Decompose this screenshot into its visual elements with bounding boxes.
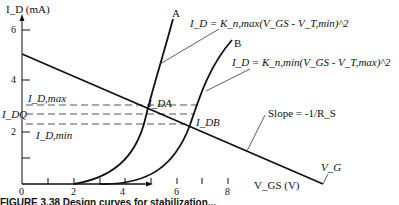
x-axis-arrow-icon <box>146 182 153 187</box>
y-tick-6: 6 <box>11 25 16 35</box>
x-axis-label: V_GS (V) <box>254 180 300 191</box>
y-tick-4: 4 <box>11 75 16 85</box>
curve-a-equation: I_D = K_n,max(V_GS - V_T,min)^2 <box>190 18 349 29</box>
y-axis-arrow-icon <box>20 14 25 21</box>
idb-label: I_DB <box>196 117 220 128</box>
x-tick-2: 2 <box>71 187 76 197</box>
figure-caption: FIGURE 3.38 Design curves for stabilizat… <box>0 197 216 205</box>
id-min-label: I_D,min <box>36 130 72 141</box>
x-tick-8: 8 <box>225 187 230 197</box>
slope-label: Slope = -1/R_S <box>268 108 336 119</box>
vg-label: V_G <box>321 162 341 173</box>
y-tick-2: 2 <box>11 127 16 137</box>
curve-a-label: A <box>172 8 180 19</box>
idq-label: I_DQ <box>2 109 27 120</box>
curve-b <box>100 40 232 184</box>
curve-b-equation: I_D = K_n,min(V_GS - V_T,max)^2 <box>232 57 391 68</box>
bias-line <box>22 54 323 184</box>
x-tick-4: 4 <box>120 187 125 197</box>
curve-b-label: B <box>234 38 241 49</box>
id-max-label: I_D,max <box>28 93 66 104</box>
x-tick-6: 6 <box>174 187 179 197</box>
y-axis-label: I_D (mA) <box>6 4 50 15</box>
x-tick-0: 0 <box>19 187 24 197</box>
ida-label: I_DA <box>148 98 172 109</box>
